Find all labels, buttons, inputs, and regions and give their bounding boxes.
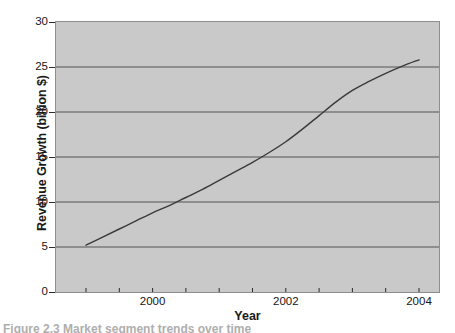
y-tick-label-25: 25 [0,61,48,73]
figure-container: Revenue Growth (billion $) 051015202530 … [0,0,455,333]
x-tick-label-2000: 2000 [123,296,183,308]
figure-caption: Figure 2.3 Market segment trends over ti… [3,322,455,333]
y-tick-label-15: 15 [0,151,48,163]
chart-plot-svg [56,22,439,292]
x-axis-title: Year [55,309,440,323]
y-tick-label-30: 30 [0,16,48,28]
gridlines [56,67,439,247]
y-tick-label-20: 20 [0,106,48,118]
y-tick-label-5: 5 [0,241,48,253]
series-line-revenue-growth [86,60,419,245]
x-tick-label-2004: 2004 [389,296,449,308]
y-tick-label-0: 0 [0,286,48,298]
x-axis-minor-ticks [86,288,419,292]
y-tick-label-10: 10 [0,196,48,208]
x-tick-label-2002: 2002 [256,296,316,308]
plot-area [55,21,440,293]
